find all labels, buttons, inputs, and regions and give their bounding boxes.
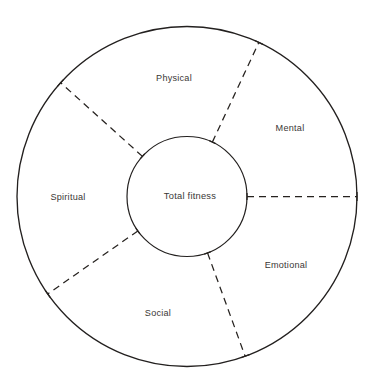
segment-label-physical: Physical <box>156 73 192 83</box>
segment-label-emotional: Emotional <box>265 260 308 270</box>
total-fitness-diagram: Physical Mental Emotional Social Spiritu… <box>0 0 370 388</box>
divider-spiritual-physical-cap-outer <box>58 79 64 86</box>
divider-emotional-social <box>208 253 246 356</box>
divider-spiritual-physical <box>61 83 143 157</box>
divider-physical-mental <box>212 42 258 142</box>
divider-social-spiritual <box>48 231 138 294</box>
hub-label-total-fitness: Total fitness <box>164 191 216 201</box>
segment-label-social: Social <box>145 308 171 318</box>
divider-social-spiritual-cap-outer <box>45 290 50 297</box>
segment-label-mental: Mental <box>276 123 305 133</box>
segment-label-spiritual: Spiritual <box>50 192 85 202</box>
divider-social-spiritual-cap-inner <box>136 228 140 234</box>
